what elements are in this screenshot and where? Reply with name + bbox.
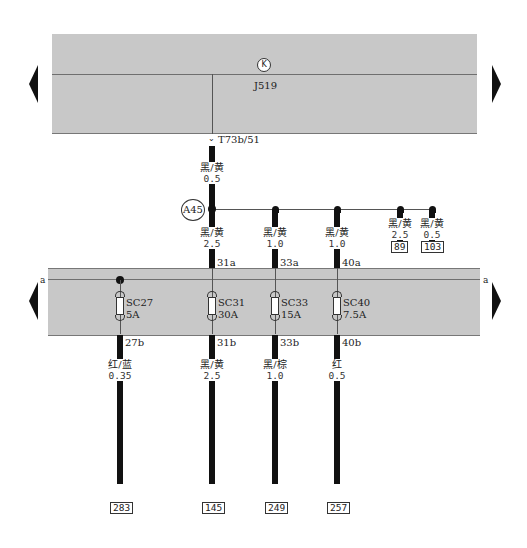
fuse-sc31-icon (208, 297, 216, 315)
pin-33a: 33a (280, 257, 299, 268)
splice-a45-badge: A45 (181, 199, 205, 221)
fuse-sc33-rating: 15A (281, 309, 301, 320)
j519-internal-line (52, 74, 477, 75)
ref-link-257[interactable]: 257 (327, 502, 350, 514)
bottom-left-nav-arrow-icon[interactable] (29, 282, 38, 320)
wire-color: 黑/棕 (250, 359, 300, 370)
j519-label: J519 (254, 80, 277, 91)
fuse-sc40-icon (333, 297, 341, 315)
wire-gauge: 0.5 (187, 173, 237, 184)
wire-label-40a: 黑/黄 1.0 (312, 227, 362, 249)
fuse-box-edge-label-right: a (483, 276, 488, 285)
ref-link-283[interactable]: 283 (110, 502, 133, 514)
pin-40a: 40a (342, 257, 361, 268)
pin-31b: 31b (217, 337, 236, 348)
ref-link-145[interactable]: 145 (202, 502, 225, 514)
fuse-sc33-icon (271, 297, 279, 315)
wire-color: 红 (312, 359, 362, 370)
k-symbol-icon: K (257, 58, 271, 72)
wire-color: 红/蓝 (95, 359, 145, 370)
wire-label-33b: 黑/棕 1.0 (250, 359, 300, 381)
fuse-sc31-id: SC31 (218, 297, 245, 308)
wire-label-27b: 红/蓝 0.35 (95, 359, 145, 381)
wire-label-103: 黑/黄 0.5 (417, 218, 447, 240)
wire-gauge: 1.0 (250, 370, 300, 381)
wire-color: 黑/黄 (417, 218, 447, 229)
wire-gauge: 1.0 (250, 238, 300, 249)
wire-gauge: 0.35 (95, 370, 145, 381)
fuse-sc40-rating: 7.5A (343, 309, 366, 320)
wire-color: 黑/黄 (312, 227, 362, 238)
wire-gauge: 0.5 (312, 370, 362, 381)
bottom-right-nav-arrow-icon[interactable] (492, 282, 501, 320)
connector-pin-label: T73b/51 (218, 134, 260, 145)
wire-gauge: 2.5 (187, 238, 237, 249)
wire-color: 黑/黄 (250, 227, 300, 238)
fuse-box-bus-line (48, 279, 480, 280)
pin-31a: 31a (217, 257, 236, 268)
wire-label-40b: 红 0.5 (312, 359, 362, 381)
pin-33b: 33b (280, 337, 299, 348)
wire-out-40b (334, 335, 340, 484)
ref-link-103[interactable]: 103 (421, 241, 444, 253)
connector-arrow-icon: ⌄ (208, 133, 215, 144)
fuse-sc27-icon (116, 297, 124, 315)
ref-link-249[interactable]: 249 (265, 502, 288, 514)
wire-label-31a: 黑/黄 2.5 (187, 227, 237, 249)
wire-gauge: 0.5 (417, 229, 447, 240)
wire-color: 黑/黄 (187, 162, 237, 173)
wire-color: 黑/黄 (385, 218, 415, 229)
top-left-nav-arrow-icon[interactable] (29, 65, 38, 103)
wire-gauge: 2.5 (187, 370, 237, 381)
fuse-sc40-id: SC40 (343, 297, 370, 308)
fuse-sc27-id: SC27 (126, 297, 153, 308)
wire-label-33a: 黑/黄 1.0 (250, 227, 300, 249)
wire-out-27b (117, 335, 123, 484)
fuse-sc27-rating: 5A (126, 309, 140, 320)
j519-internal-trace (212, 74, 213, 134)
pin-27b: 27b (125, 337, 144, 348)
wire-label-j519-a45: 黑/黄 0.5 (187, 162, 237, 184)
pin-40b: 40b (342, 337, 361, 348)
ref-link-89[interactable]: 89 (391, 241, 408, 253)
fuse-box-edge-label-left: a (40, 276, 45, 285)
wire-gauge: 2.5 (385, 229, 415, 240)
fuse-sc33-id: SC33 (281, 297, 308, 308)
wire-out-31b (209, 335, 215, 484)
wire-out-33b (272, 335, 278, 484)
wire-label-89: 黑/黄 2.5 (385, 218, 415, 240)
wire-label-31b: 黑/黄 2.5 (187, 359, 237, 381)
wire-color: 黑/黄 (187, 227, 237, 238)
wire-color: 黑/黄 (187, 359, 237, 370)
wire-gauge: 1.0 (312, 238, 362, 249)
fuse-sc31-rating: 30A (218, 309, 238, 320)
top-right-nav-arrow-icon[interactable] (492, 65, 501, 103)
